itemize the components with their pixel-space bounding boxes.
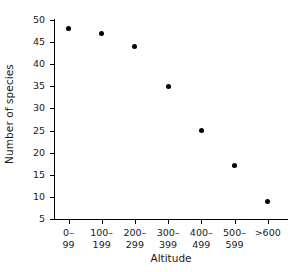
x-axis-tick-label-line1: >600 [246,227,290,239]
x-axis-tick [168,220,169,224]
y-axis-tick [50,86,55,87]
y-axis-tick-label: 45 [21,37,45,47]
y-axis-tick [50,64,55,65]
x-axis-title: Altitude [55,252,287,264]
x-axis-tick [268,220,269,224]
data-point [232,163,237,168]
x-axis-line [54,219,288,220]
data-point [199,128,204,133]
y-axis-title-text: Number of species [3,64,15,164]
y-axis-tick [50,42,55,43]
y-axis-tick [50,131,55,132]
data-point [66,26,71,31]
x-axis-tick [135,220,136,224]
y-axis-title: Number of species [0,0,18,228]
y-axis-tick-label: 5 [21,214,45,224]
y-axis-tick-label: 40 [21,59,45,69]
y-axis-tick-label: 50 [21,15,45,25]
data-point [265,199,270,204]
data-point [166,84,171,89]
y-axis-line [54,19,55,220]
data-point [132,44,137,49]
y-axis-tick-label: 10 [21,192,45,202]
y-axis-tick [50,219,55,220]
x-axis-tick [201,220,202,224]
y-axis-tick-label: 35 [21,81,45,91]
y-axis-tick [50,175,55,176]
x-axis-tick [102,220,103,224]
y-axis-tick-label: 25 [21,126,45,136]
y-axis-tick [50,153,55,154]
y-axis-tick [50,108,55,109]
y-axis-tick [50,20,55,21]
y-axis-tick-label: 30 [21,103,45,113]
scatter-plot-figure: Number of species 5045403530252015105 0–… [0,0,294,272]
y-axis-tick [50,197,55,198]
x-axis-tick [235,220,236,224]
y-axis-tick-label: 20 [21,148,45,158]
data-point [99,31,104,36]
x-axis-tick-label-line2: 599 [213,239,257,251]
x-axis-tick [69,220,70,224]
x-axis-tick-label: >600 [246,227,290,239]
y-axis-tick-label: 15 [21,170,45,180]
